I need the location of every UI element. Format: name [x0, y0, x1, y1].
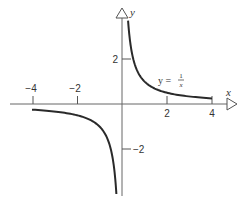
- x-tick-label-m2: −2: [69, 83, 81, 94]
- x-ticks: −4 −2 2 4: [25, 83, 215, 119]
- x-tick-label-m4: −4: [25, 83, 37, 94]
- x-axis-label: x: [225, 86, 231, 98]
- equation-numerator: 1: [179, 72, 183, 80]
- equation-prefix: y =: [158, 75, 172, 86]
- hyperbola-chart: x y −4 −2 2 4 2 −2 y = 1 x: [0, 0, 247, 205]
- y-tick-label-2: 2: [112, 54, 118, 65]
- curve-negative-branch: [32, 110, 116, 194]
- y-axis-label: y: [129, 6, 135, 18]
- curve-positive-branch: [128, 21, 212, 99]
- x-tick-label-2: 2: [164, 108, 170, 119]
- x-axis-arrow-icon: [227, 98, 237, 110]
- equation-label: y = 1 x: [158, 72, 184, 89]
- x-tick-label-4: 4: [209, 108, 215, 119]
- y-tick-label-m2: −2: [133, 144, 145, 155]
- y-axis-arrow-icon: [116, 8, 128, 18]
- equation-denominator: x: [178, 81, 183, 89]
